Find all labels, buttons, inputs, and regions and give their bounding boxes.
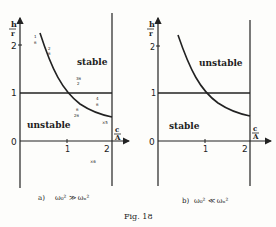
panel-b-caption-condition: ω₀² ≪ ωₙ² [194, 197, 229, 205]
panel-a-x-label-bottom: A [114, 133, 121, 142]
panel-a-region-unstable: unstable [27, 120, 71, 130]
panel-a-y-tick-2: 2 [11, 41, 17, 51]
annotation-2-bottom: π [48, 51, 51, 56]
annotation-4-bottom: π [96, 102, 99, 107]
panel-b-x-tick-2: 2 [242, 144, 248, 154]
panel-b-y-tick-1: 1 [151, 89, 156, 98]
panel-a-stability-curve [40, 33, 112, 117]
panel-b: h r 2 1 0 1 2 c A unstable stable b) ω₀²… [147, 18, 271, 205]
panel-a-x-tick-1: 1 [65, 145, 70, 154]
panel-b-y-label-bottom: r [149, 29, 153, 38]
panel-b-y-tick-0: 0 [149, 137, 155, 147]
figure-caption: Fig. 18 [124, 212, 153, 221]
panel-a-y-tick-1: 1 [11, 88, 17, 98]
figure-18: h r 2 1 0 1 2 c A stable unstable 1 π 2 … [0, 0, 276, 227]
panel-b-y-tick-2: 2 [150, 43, 155, 52]
panel-a-caption-condition: ω₀² ≫ ωₙ² [55, 194, 90, 202]
panel-a-y-label-top: h [11, 19, 17, 29]
panel-b-x-label-bottom: A [252, 132, 259, 141]
panel-a-caption-label: a) [38, 194, 45, 202]
annotation-3-bottom: 2 [77, 81, 80, 86]
panel-b-region-stable: stable [169, 121, 200, 131]
panel-a-y-label-bottom: r [11, 29, 15, 38]
panel-b-region-unstable: unstable [199, 58, 243, 68]
annotation-1-top: 1 [34, 34, 37, 39]
panel-a-x-tick-2: 2 [104, 144, 110, 154]
panel-a-region-stable: stable [77, 57, 108, 67]
panel-b-caption-label: b) [182, 197, 189, 205]
panel-b-x-tick-1: 1 [203, 145, 208, 154]
panel-a-y-tick-0: 0 [11, 137, 17, 147]
panel-a: h r 2 1 0 1 2 c A stable unstable 1 π 2 … [9, 13, 129, 202]
annotation-5-bottom: 2π [74, 113, 80, 118]
annotation-7: ×6 [90, 159, 96, 164]
annotation-6: ×5 [102, 120, 108, 125]
annotation-4-top: 4 [96, 96, 99, 101]
annotation-5-top: π [76, 107, 79, 112]
panel-b-stability-curve [178, 35, 250, 116]
panel-b-y-label-top: h [149, 19, 155, 29]
annotation-1-bottom: π [34, 40, 37, 45]
